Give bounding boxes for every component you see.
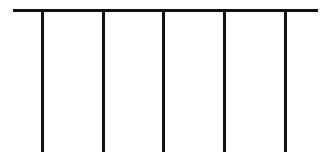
vertical-leg-4 — [223, 9, 226, 152]
vertical-leg-5 — [284, 9, 287, 152]
top-bar — [13, 9, 318, 12]
vertical-leg-1 — [41, 9, 44, 152]
vertical-leg-3 — [162, 9, 165, 152]
vertical-leg-2 — [102, 9, 105, 152]
